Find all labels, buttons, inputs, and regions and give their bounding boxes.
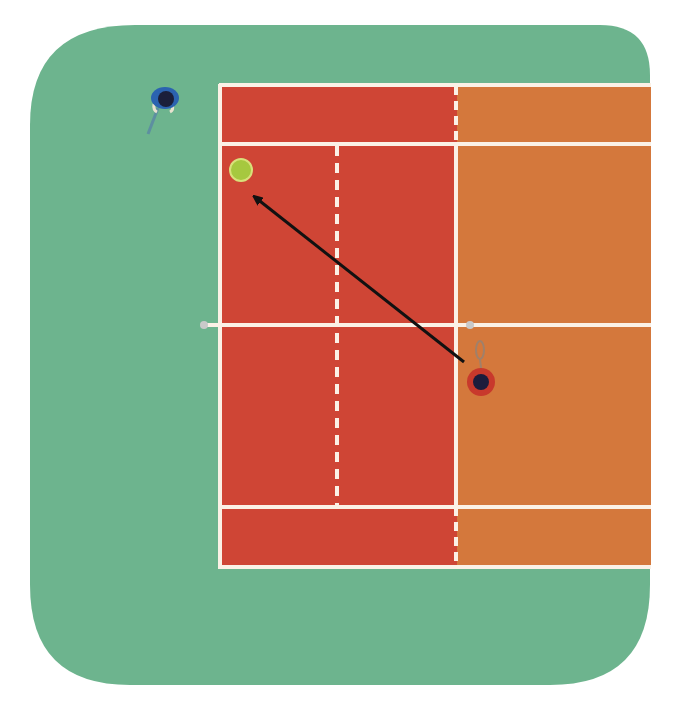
tennis-ball (230, 159, 252, 181)
racket-handle (480, 359, 481, 368)
net-post-left (200, 321, 208, 329)
player-head (158, 91, 174, 107)
tennis-court-diagram (0, 0, 687, 711)
net-post-center (466, 321, 474, 329)
player-head (473, 374, 489, 390)
